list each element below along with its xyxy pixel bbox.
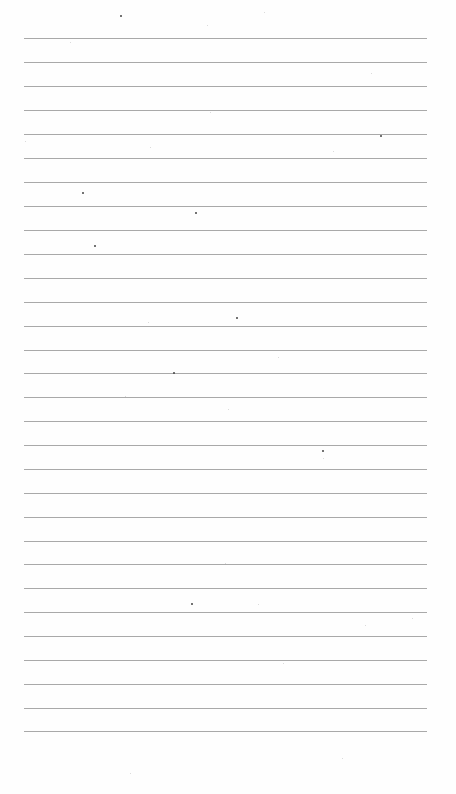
scan-speck [412,618,413,619]
ruled-line [24,350,427,351]
ruled-line [24,731,427,732]
ruled-line [24,517,427,518]
ruled-line [24,326,427,327]
ruled-line [24,397,427,398]
scan-speck [225,563,226,564]
ruled-line [24,134,427,135]
scan-speck [150,147,151,148]
scan-speck [264,12,265,13]
ruled-line [24,86,427,87]
scan-speck [342,758,343,759]
ruled-line [24,541,427,542]
ruled-line [24,445,427,446]
scan-speck [148,322,149,323]
scan-speck [278,357,279,358]
scan-speck [210,112,211,113]
scan-speck [322,450,324,452]
ruled-line [24,230,427,231]
ruled-line [24,38,427,39]
ruled-line [24,302,427,303]
scan-speck [380,135,382,137]
ruled-line [24,158,427,159]
ruled-line [24,182,427,183]
scan-speck [333,151,334,152]
scan-speck [207,25,208,26]
scan-speck [283,663,284,664]
scan-speck [323,458,324,459]
scan-speck [258,604,259,605]
scan-speck [25,141,26,142]
ruled-line [24,588,427,589]
scan-speck [371,73,372,74]
scan-speck [94,245,96,247]
ruled-line [24,636,427,637]
ruled-line [24,660,427,661]
ruled-line [24,469,427,470]
scan-speck [228,409,229,410]
ruled-line [24,62,427,63]
ruled-line [24,278,427,279]
scan-speck [191,603,193,605]
scan-speck [125,396,126,397]
ruled-line [24,110,427,111]
scan-speck [236,317,238,319]
ruled-line [24,493,427,494]
ruled-line [24,564,427,565]
scan-speck [120,15,122,17]
scan-speck [195,212,197,214]
scan-speck [365,625,366,626]
ruled-line [24,206,427,207]
ruled-line [24,254,427,255]
scan-speck [130,773,131,774]
scan-speck [70,42,71,43]
ruled-line [24,684,427,685]
ruled-line [24,421,427,422]
ruled-line [24,373,427,374]
ruled-paper-page [0,0,456,794]
scan-speck [82,192,84,194]
ruled-line [24,612,427,613]
scan-speck [173,372,175,374]
ruled-line [24,708,427,709]
